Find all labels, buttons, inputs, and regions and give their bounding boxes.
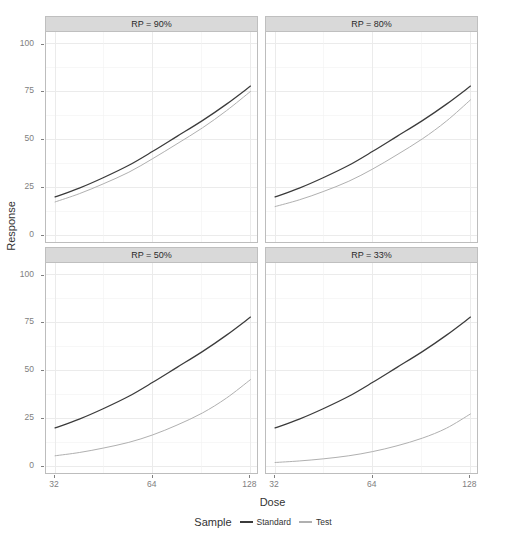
y-tick-mark: [41, 370, 44, 371]
facet-strip: RP = 50%: [45, 247, 258, 263]
facet-plot: Response 00252550507575100100 3232646412…: [0, 0, 526, 540]
x-tick-mark: [372, 475, 373, 478]
legend: Sample StandardTest: [0, 516, 526, 528]
y-tick-label: 75: [0, 317, 34, 326]
legend-title: Sample: [194, 516, 231, 528]
facet-plot-area: [45, 263, 258, 474]
facet-plot-area: [45, 32, 258, 243]
y-tick-label: 50: [0, 365, 34, 374]
facet-plot-area: [265, 32, 478, 243]
y-tick-label: 100: [0, 39, 34, 48]
x-tick-label: 128: [242, 480, 256, 489]
x-tick-label: 64: [367, 480, 376, 489]
y-tick-mark: [41, 235, 44, 236]
x-tick-mark: [54, 475, 55, 478]
legend-item[interactable]: Standard: [240, 517, 292, 527]
y-tick-mark: [41, 91, 44, 92]
facet-strip-label: RP = 80%: [351, 20, 392, 29]
x-axis-title: Dose: [45, 496, 500, 508]
facet-canvas: [46, 263, 258, 474]
y-tick-label: 0: [0, 230, 34, 239]
facet-panel: RP = 90%: [45, 16, 258, 243]
x-tick-label: 32: [269, 480, 278, 489]
y-tick-mark: [41, 418, 44, 419]
facet-strip: RP = 80%: [265, 16, 478, 32]
x-tick-mark: [469, 475, 470, 478]
y-tick-label: 100: [0, 270, 34, 279]
facet-strip-label: RP = 50%: [131, 251, 172, 260]
y-tick-label: 75: [0, 86, 34, 95]
facet-strip: RP = 33%: [265, 247, 478, 263]
y-tick-label: 25: [0, 413, 34, 422]
legend-item[interactable]: Test: [299, 517, 332, 527]
facet-panel: RP = 80%: [265, 16, 478, 243]
facet-canvas: [46, 32, 258, 243]
x-tick-mark: [274, 475, 275, 478]
x-tick-label: 128: [462, 480, 476, 489]
facet-panel: RP = 33%: [265, 247, 478, 474]
y-tick-label: 50: [0, 134, 34, 143]
facet-strip-label: RP = 33%: [351, 251, 392, 260]
facet-canvas: [266, 32, 478, 243]
legend-item-label: Standard: [257, 517, 292, 527]
legend-key-line-icon: [299, 521, 312, 523]
y-tick-mark: [41, 466, 44, 467]
facet-strip: RP = 90%: [45, 16, 258, 32]
y-tick-mark: [41, 44, 44, 45]
facet-strip-label: RP = 90%: [131, 20, 172, 29]
y-tick-label: 25: [0, 182, 34, 191]
facet-plot-area: [265, 263, 478, 474]
x-tick-mark: [152, 475, 153, 478]
legend-key-line-icon: [240, 521, 253, 523]
y-tick-label: 0: [0, 461, 34, 470]
y-tick-mark: [41, 139, 44, 140]
y-tick-mark: [41, 275, 44, 276]
legend-item-label: Test: [316, 517, 332, 527]
y-tick-mark: [41, 187, 44, 188]
y-tick-mark: [41, 322, 44, 323]
legend-items: StandardTest: [240, 517, 332, 527]
x-tick-label: 32: [49, 480, 58, 489]
x-tick-label: 64: [147, 480, 156, 489]
facet-panel: RP = 50%: [45, 247, 258, 474]
facet-canvas: [266, 263, 478, 474]
x-tick-mark: [249, 475, 250, 478]
